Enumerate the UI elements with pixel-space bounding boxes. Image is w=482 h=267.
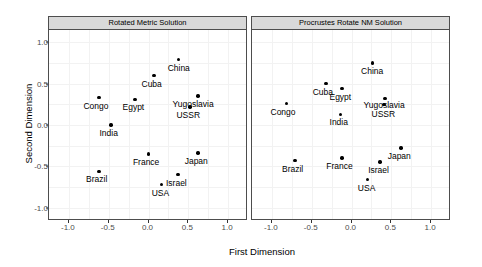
panel-plot-area: ChinaCubaEgyptYugoslaviaCongoUSSRIndiaJa… [251,30,450,220]
data-point [109,123,112,126]
data-point [371,61,374,64]
data-point [382,103,385,106]
y-tick-label: 0.5 [26,79,48,88]
x-tick-mark [187,220,188,223]
x-tick-label: -1.0 [264,223,278,232]
x-tick-label: -0.5 [101,223,115,232]
data-point-label: Japan [388,151,411,161]
facet-strip-label: Procrustes Rotate NM Solution [251,16,450,30]
faceted-scatter-plot: Second Dimension First Dimension 1.00.50… [0,0,482,267]
data-point-label: India [330,117,348,127]
data-point-label: Japan [185,156,208,166]
data-point-label: France [326,161,352,171]
data-point-label: China [168,63,190,73]
grid-line-horizontal [49,208,246,209]
x-tick-mark [311,220,312,223]
grid-line-horizontal [252,104,449,105]
y-tick-label: -0.5 [26,162,48,171]
data-point-label: Congo [271,107,296,117]
grid-line-horizontal [49,104,246,105]
data-point-label: India [99,128,117,138]
grid-line-horizontal [252,84,449,85]
data-point-label: Yugoslavia [173,99,214,109]
x-tick-mark [108,220,109,223]
data-point-label: Brazil [282,164,303,174]
x-tick-label: -0.5 [304,223,318,232]
data-point-label: Egypt [329,92,351,102]
grid-line-horizontal [49,63,246,64]
data-point-label: Cuba [142,79,162,89]
data-point-label: Israel [368,165,389,175]
grid-line-horizontal [252,42,449,43]
panel-plot-area: ChinaCubaCongoEgyptYugoslaviaUSSRIndiaFr… [48,30,247,220]
data-point [97,96,100,99]
y-tick-label: 1.0 [26,38,48,47]
x-axis-title: First Dimension [52,246,472,257]
grid-line-horizontal [49,42,246,43]
y-axis-ticks: 1.00.50.0-0.5-1.0 [20,0,48,267]
x-tick-label: 0.5 [182,223,193,232]
facet-panel: Procrustes Rotate NM SolutionChinaCubaEg… [251,16,450,220]
facet-panel: Rotated Metric SolutionChinaCubaCongoEgy… [48,16,247,220]
grid-line-horizontal [252,125,449,126]
x-tick-label: 1.0 [425,223,436,232]
grid-line-horizontal [252,208,449,209]
data-point [324,82,327,85]
grid-line-horizontal [49,125,246,126]
data-point-label: USA [358,183,375,193]
x-tick-label: 1.0 [222,223,233,232]
grid-line-horizontal [252,187,449,188]
data-point [160,183,163,186]
data-point [378,160,381,163]
data-point [366,178,369,181]
y-tick-label: -1.0 [26,203,48,212]
data-point [196,151,199,154]
data-point-label: USA [152,188,169,198]
data-point [188,105,191,108]
x-tick-mark [271,220,272,223]
x-tick-mark [227,220,228,223]
data-point-label: USSR [176,110,200,120]
x-tick-mark [390,220,391,223]
data-point [339,113,342,116]
data-point [340,87,343,90]
data-point-label: Congo [83,101,108,111]
y-tick-label: 0.0 [26,121,48,130]
data-point [176,173,179,176]
x-tick-label: 0.5 [385,223,396,232]
x-tick-label: 0.0 [142,223,153,232]
data-point-label: Egypt [123,102,145,112]
data-point [293,159,296,162]
data-point-label: USSR [372,109,396,119]
data-point [147,152,150,155]
x-tick-mark [148,220,149,223]
grid-line-horizontal [49,187,246,188]
x-tick-label: 0.0 [345,223,356,232]
x-tick-mark [68,220,69,223]
x-tick-label: -1.0 [61,223,75,232]
data-point [152,74,155,77]
grid-line-horizontal [49,146,246,147]
x-tick-mark [430,220,431,223]
data-point-label: Israel [166,178,187,188]
data-point [399,146,402,149]
data-point-label: China [361,66,383,76]
facet-strip-label: Rotated Metric Solution [48,16,247,30]
data-point [177,58,180,61]
data-point-label: France [133,157,159,167]
grid-line-horizontal [252,63,449,64]
grid-line-horizontal [252,146,449,147]
data-point [97,170,100,173]
x-tick-mark [351,220,352,223]
data-point [133,98,136,101]
data-point [340,156,343,159]
data-point [196,94,199,97]
data-point-label: Brazil [86,174,107,184]
